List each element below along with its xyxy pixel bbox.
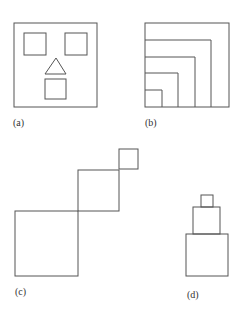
face-outline: [14, 23, 97, 107]
nested-square-3: [145, 57, 195, 107]
panel-d-stacked-squares: [186, 195, 228, 276]
figure-canvas: [0, 0, 248, 315]
panel-b-nested-squares: [145, 23, 229, 107]
panel-d-label: (d): [187, 289, 199, 300]
nested-square-1: [145, 23, 229, 107]
panel-b-label: (b): [145, 117, 157, 128]
panel-a-face: [14, 23, 97, 107]
nested-square-5: [145, 90, 162, 107]
panel-c-diagonal-squares: [15, 149, 138, 276]
left-eye-square: [24, 33, 46, 55]
nose-triangle: [45, 58, 66, 74]
bottom-square: [186, 234, 228, 276]
large-square: [15, 211, 78, 276]
panel-a-label: (a): [13, 117, 24, 128]
small-square: [119, 149, 138, 169]
right-eye-square: [65, 33, 87, 55]
mouth-square: [45, 79, 66, 99]
panel-c-label: (c): [15, 286, 26, 297]
top-square: [201, 195, 213, 207]
medium-square: [78, 170, 119, 211]
middle-square: [193, 207, 220, 234]
